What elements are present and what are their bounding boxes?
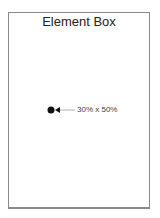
diagram-canvas: Element Box 30% x 50% bbox=[0, 0, 160, 218]
position-readout: 30% x 50% bbox=[77, 105, 117, 115]
position-marker-dot bbox=[48, 107, 55, 114]
pointer-arrow-svg bbox=[55, 107, 75, 114]
pointer-arrow-icon bbox=[55, 107, 75, 114]
arrow-head bbox=[55, 107, 60, 113]
element-box: Element Box 30% x 50% bbox=[8, 12, 150, 209]
box-title: Element Box bbox=[9, 14, 149, 29]
